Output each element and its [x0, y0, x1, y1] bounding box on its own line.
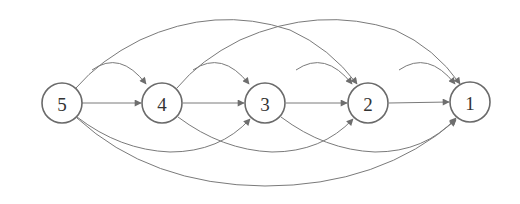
node-2: 2 [348, 83, 388, 123]
node-3-label: 3 [260, 94, 270, 115]
node-5-label: 5 [57, 94, 67, 115]
edge-4-3-arc [193, 63, 249, 84]
node-4: 4 [142, 83, 182, 123]
node-2-label: 2 [363, 94, 373, 115]
node-4-label: 4 [157, 94, 167, 115]
edge-4-1-arc [177, 20, 460, 88]
edge-5-4-arc [92, 63, 146, 84]
node-1: 1 [450, 82, 490, 122]
node-5: 5 [42, 83, 82, 123]
node-3: 3 [245, 83, 285, 123]
edge-2-1-straight [389, 102, 449, 103]
node-1-label: 1 [465, 93, 475, 114]
edge-2-1-arc [399, 63, 455, 84]
graph-canvas: 5 4 3 2 1 [0, 0, 520, 204]
edge-3-2-arc [296, 63, 352, 84]
